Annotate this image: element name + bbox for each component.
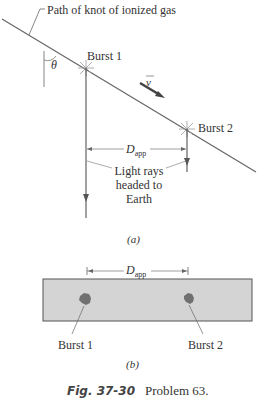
arrowhead-icon [87, 147, 92, 151]
burst1-label: Burst 1 [87, 50, 122, 62]
photo-strip [43, 279, 252, 321]
problem-reference: Problem 63. [145, 383, 209, 398]
burst1-photo-label: Burst 1 [58, 339, 93, 351]
arrowhead-icon [181, 147, 186, 151]
arrowhead-icon [83, 194, 89, 202]
burst2-label: Burst 2 [198, 122, 233, 134]
theta-label: θ [51, 59, 57, 71]
figure-caption: Fig. 37-30Problem 63. [67, 383, 209, 399]
burst2-photo-label: Burst 2 [188, 339, 223, 351]
panel-a-label: (a) [127, 234, 140, 245]
dapp-label-a: Dapp [126, 143, 146, 158]
figure-number: Fig. 37-30 [67, 384, 135, 398]
path-label-leader [29, 9, 45, 35]
arrowhead-icon [88, 269, 93, 273]
dapp-label-b: Dapp [126, 264, 146, 279]
arrowhead-icon [184, 158, 190, 166]
light-rays-label: Light rays headed to Earth [113, 164, 165, 206]
arrowhead-icon [182, 269, 187, 273]
panel-b-label: (b) [126, 359, 139, 370]
light-rays-leader [87, 161, 112, 168]
path-label: Path of knot of ionized gas [47, 4, 176, 16]
velocity-label: v [146, 77, 151, 88]
